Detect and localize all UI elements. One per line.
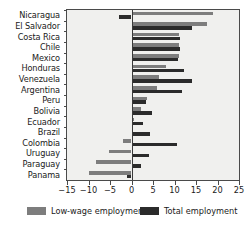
chart-container: NicaraguaEl SalvadorCosta RicaChileMexic… <box>0 0 247 227</box>
value-tick <box>196 181 197 185</box>
value-tick-label: 10 <box>169 185 179 195</box>
bar-uruguay-total <box>132 154 149 158</box>
bar-honduras-total <box>132 69 184 73</box>
value-tick-label: −15 <box>58 185 75 195</box>
bar-chile-total <box>132 47 181 51</box>
category-tick <box>64 21 67 22</box>
value-tick <box>89 181 90 185</box>
category-label-peru: Peru <box>42 95 60 106</box>
category-tick <box>64 138 67 139</box>
bar-argentina-total <box>132 90 182 94</box>
value-tick-label: 15 <box>191 185 201 195</box>
category-tick <box>64 127 67 128</box>
category-label-costa-rica: Costa Rica <box>18 31 60 42</box>
category-label-venezuela: Venezuela <box>19 74 60 85</box>
value-tick-label: 0 <box>129 185 134 195</box>
value-tick <box>218 181 219 185</box>
category-tick <box>64 42 67 43</box>
legend-label-total-employment: Total employment <box>164 206 237 216</box>
category-label-brazil: Brazil <box>38 127 60 138</box>
value-axis: −15−10−50510152025 <box>66 181 240 203</box>
value-tick-label: 5 <box>150 185 155 195</box>
category-tick <box>64 84 67 85</box>
value-tick <box>67 181 68 185</box>
chart-legend: Low-wage employment Total employment <box>0 203 247 225</box>
bar-venezuela-total <box>132 79 192 83</box>
category-label-colombia: Colombia <box>22 137 60 148</box>
value-tick <box>175 181 176 185</box>
category-tick <box>64 159 67 160</box>
value-tick <box>132 181 133 185</box>
legend-item-low-wage-employment: Low-wage employment <box>27 206 146 216</box>
category-label-argentina: Argentina <box>21 84 60 95</box>
category-tick <box>64 169 67 170</box>
plot-area <box>66 9 240 181</box>
category-label-uruguay: Uruguay <box>26 148 60 159</box>
value-tick <box>153 181 154 185</box>
category-label-nicaragua: Nicaragua <box>19 10 60 21</box>
category-label-paraguay: Paraguay <box>23 159 60 170</box>
category-label-chile: Chile <box>40 42 60 53</box>
bar-brazil-total <box>132 132 150 136</box>
category-label-bolivia: Bolivia <box>33 106 60 117</box>
bar-paraguay-low-wage <box>96 160 131 164</box>
value-tick-label: 25 <box>234 185 244 195</box>
category-label-ecuador: Ecuador <box>27 116 60 127</box>
bar-costa-rica-total <box>132 37 181 41</box>
legend-item-total-employment: Total employment <box>140 206 237 216</box>
bar-mexico-total <box>132 58 178 62</box>
legend-swatch-low-wage-employment <box>27 207 46 215</box>
category-tick <box>64 10 67 11</box>
bar-paraguay-total <box>132 164 142 168</box>
category-label-mexico: Mexico <box>32 52 60 63</box>
category-tick <box>64 63 67 64</box>
category-tick <box>64 116 67 117</box>
value-tick <box>239 181 240 185</box>
category-tick <box>64 148 67 149</box>
value-tick <box>110 181 111 185</box>
category-tick <box>64 53 67 54</box>
bar-nicaragua-low-wage <box>132 12 214 16</box>
category-tick <box>64 31 67 32</box>
category-axis-labels: NicaraguaEl SalvadorCosta RicaChileMexic… <box>0 9 64 181</box>
zero-reference-line <box>132 10 133 180</box>
value-tick-label: −10 <box>80 185 97 195</box>
value-tick-label: −5 <box>104 185 116 195</box>
category-label-el-salvador: El Salvador <box>15 21 60 32</box>
legend-swatch-total-employment <box>140 207 159 215</box>
bar-peru-total <box>132 100 146 104</box>
category-label-honduras: Honduras <box>21 63 60 74</box>
bar-ecuador-total <box>132 122 144 126</box>
bar-series-group <box>67 10 239 180</box>
bar-bolivia-total <box>132 111 153 115</box>
bar-el-salvador-total <box>132 26 192 30</box>
category-label-panama: Panama <box>28 169 60 180</box>
bar-nicaragua-total <box>119 15 132 19</box>
bar-colombia-low-wage <box>123 139 132 143</box>
bar-uruguay-low-wage <box>109 150 132 154</box>
legend-label-low-wage-employment: Low-wage employment <box>51 206 146 216</box>
category-tick <box>64 74 67 75</box>
category-tick <box>64 95 67 96</box>
bar-colombia-total <box>132 143 177 147</box>
category-tick <box>64 106 67 107</box>
bar-panama-low-wage <box>89 171 131 175</box>
value-tick-label: 20 <box>212 185 222 195</box>
